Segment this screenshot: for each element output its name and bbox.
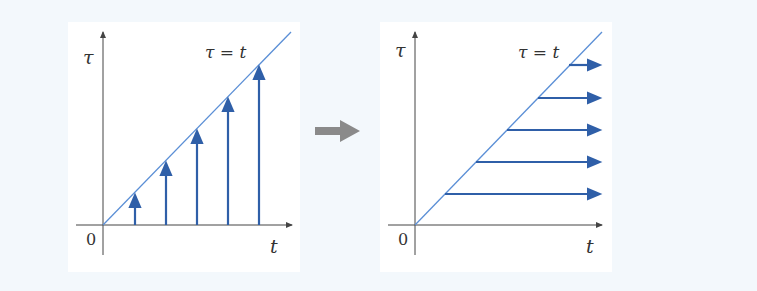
left-y-label: τ (83, 46, 94, 68)
right-horizontal-arrows (445, 65, 598, 194)
right-y-label: τ (395, 39, 406, 61)
left-vertical-arrows (135, 69, 259, 225)
left-origin-label: 0 (86, 230, 96, 249)
left-x-label: t (270, 235, 278, 257)
right-line-label: τ = t (518, 42, 559, 62)
left-diagram: τ t 0 τ = t (76, 32, 292, 257)
left-line-label: τ = t (205, 42, 246, 62)
right-diagonal-line (415, 32, 602, 225)
right-origin-label: 0 (398, 230, 408, 249)
right-diagram: τ t 0 τ = t (388, 32, 602, 257)
right-arrow-icon (315, 120, 360, 142)
diagram-canvas: τ t 0 τ = t τ t 0 τ = t (0, 0, 757, 291)
right-x-label: t (586, 235, 594, 257)
